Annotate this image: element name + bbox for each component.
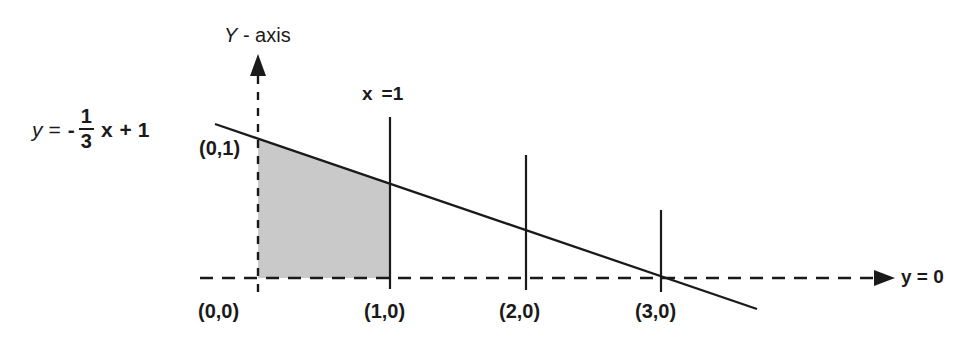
fraction-denominator: 3 bbox=[79, 131, 94, 152]
point-label-1-0: (1,0) bbox=[364, 301, 405, 321]
point-label-0-0: (0,0) bbox=[198, 301, 239, 321]
vertical-line-label-variable: x bbox=[362, 83, 373, 104]
equation-label: y = - 1 3 x + 1 bbox=[32, 106, 149, 152]
graph-canvas bbox=[0, 0, 968, 346]
linear-function-diagram: y = - 1 3 x + 1 Y - axis x=1 y = 0 (0,1)… bbox=[0, 0, 968, 346]
x-axis-arrowhead bbox=[874, 270, 895, 286]
y-axis-label: Y - axis bbox=[224, 25, 291, 45]
vertical-line-label-value: =1 bbox=[382, 83, 404, 104]
point-label-0-1: (0,1) bbox=[199, 138, 240, 158]
equation-variable: x bbox=[101, 119, 113, 140]
point-label-3-0: (3,0) bbox=[635, 301, 676, 321]
y-axis-label-text: - axis bbox=[237, 24, 290, 46]
vertical-line-x1-label: x=1 bbox=[362, 84, 403, 103]
equation-lhs: y bbox=[32, 119, 43, 140]
shaded-region bbox=[258, 139, 390, 278]
x-axis-label: y = 0 bbox=[901, 267, 944, 286]
y-axis-label-letter: Y bbox=[224, 24, 237, 46]
y-axis-arrowhead bbox=[250, 54, 266, 76]
equation-minus-sign: - bbox=[68, 119, 75, 140]
fraction-one-third: 1 3 bbox=[79, 106, 94, 152]
equation-constant-term: + 1 bbox=[120, 119, 150, 140]
equation-equals-sign: = bbox=[49, 119, 61, 140]
point-label-2-0: (2,0) bbox=[499, 301, 540, 321]
fraction-numerator: 1 bbox=[79, 106, 94, 127]
